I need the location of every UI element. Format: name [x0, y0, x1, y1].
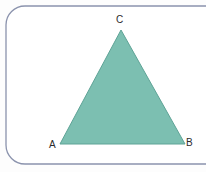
- geometry-figure: A B C: [0, 0, 206, 172]
- vertex-label-a: A: [49, 140, 56, 150]
- figure-canvas: [0, 0, 206, 172]
- vertex-label-c: C: [116, 15, 123, 25]
- vertex-label-b: B: [186, 138, 193, 148]
